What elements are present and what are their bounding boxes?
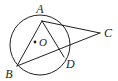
point-label-d: D xyxy=(65,57,75,71)
geometry-figure: A B C D O xyxy=(0,0,118,81)
point-label-b: B xyxy=(5,67,13,81)
geometry-canvas: A B C D O xyxy=(0,0,118,81)
point-label-c: C xyxy=(104,26,113,40)
center-label-o: O xyxy=(39,36,47,48)
segment-b-c xyxy=(17,33,100,66)
point-label-a: A xyxy=(35,2,44,16)
center-dot-icon xyxy=(34,41,37,44)
segment-a-c xyxy=(42,21,100,33)
